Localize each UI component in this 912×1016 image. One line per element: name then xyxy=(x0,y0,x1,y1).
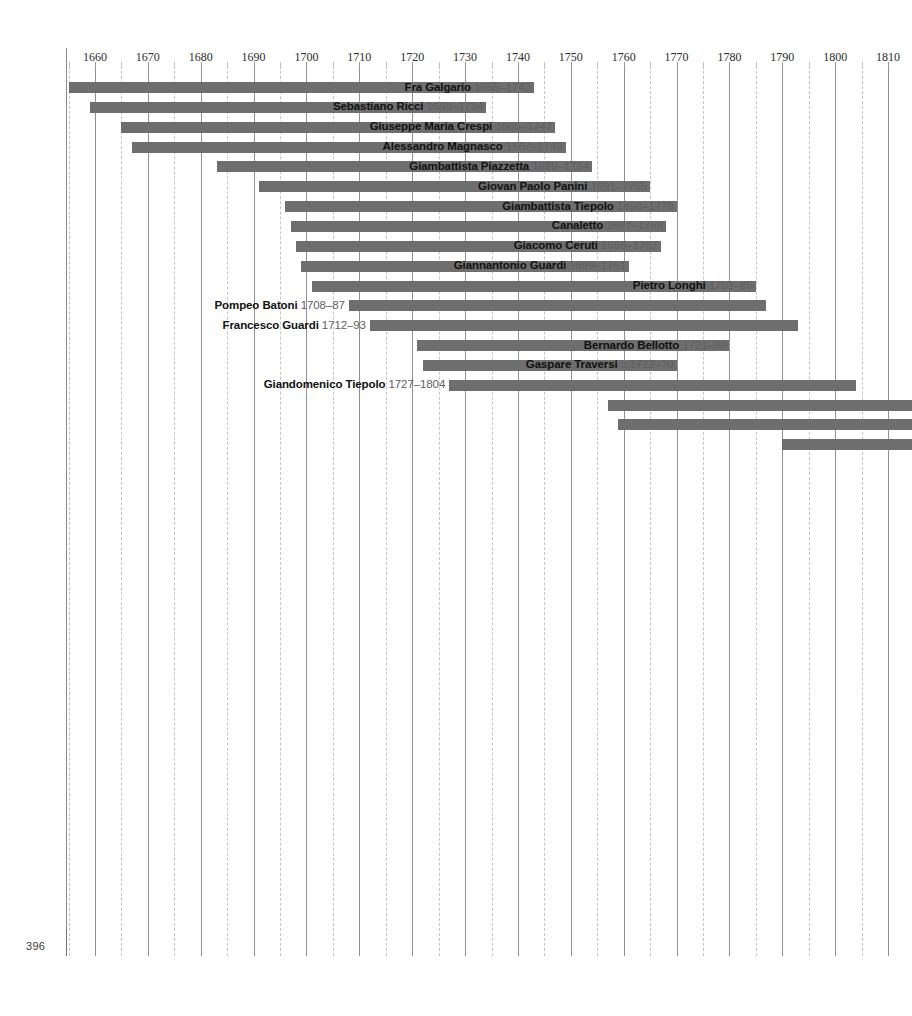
axis-tick-minor xyxy=(333,62,334,66)
artist-name: Pietro Longhi xyxy=(633,279,706,291)
axis-tick-label: 1770 xyxy=(665,50,689,65)
artist-name: Francesco Guardi xyxy=(223,319,319,331)
artist-dates: 1699–1761 xyxy=(566,259,626,271)
axis-tick-minor xyxy=(703,62,704,66)
timeline-bar-label: Fra Galgario 1655–1743 xyxy=(404,82,530,93)
axis-tick-label: 1690 xyxy=(242,50,266,65)
artist-dates: c.1722–70 xyxy=(618,358,674,370)
artist-dates: 1667–1749 xyxy=(503,140,563,152)
artist-name: Bernardo Bellotto xyxy=(584,339,679,351)
artist-dates: 1689–1754 xyxy=(529,160,589,172)
timeline-bar-label: Sebastiano Ricci 1659–1734 xyxy=(333,101,483,112)
axis-tick-minor xyxy=(174,62,175,66)
timeline-bar[interactable] xyxy=(349,300,767,311)
timeline-bar[interactable] xyxy=(370,320,798,331)
axis-tick-minor xyxy=(544,62,545,66)
axis-tick-label: 1670 xyxy=(136,50,160,65)
axis-tick-minor xyxy=(492,62,493,66)
artist-name: Giacomo Ceruti xyxy=(514,239,598,251)
axis-tick-minor xyxy=(809,62,810,66)
gridline-minor xyxy=(809,66,810,956)
timeline-bar-label: Giannantonio Guardi 1699–1761 xyxy=(454,260,626,271)
timeline-bar[interactable] xyxy=(449,380,856,391)
axis-tick-minor xyxy=(386,62,387,66)
gridline-minor xyxy=(386,66,387,956)
timeline-bar[interactable] xyxy=(782,439,912,450)
gridline-major xyxy=(412,66,413,956)
gridline-minor xyxy=(227,66,228,956)
artist-dates: 1665–1747 xyxy=(492,120,552,132)
gridline-major xyxy=(148,66,149,956)
gridline-minor xyxy=(703,66,704,956)
artist-dates: 1721–80 xyxy=(679,339,726,351)
gridline-major xyxy=(359,66,360,956)
gridline-major xyxy=(729,66,730,956)
axis-tick-minor xyxy=(862,62,863,66)
artist-name: Giambattista Piazzetta xyxy=(409,160,529,172)
artist-name: Sebastiano Ricci xyxy=(333,100,423,112)
artist-dates: 1698–1767 xyxy=(598,239,658,251)
timeline-bar-label: Giovan Paolo Panini 1691–1765 xyxy=(478,181,647,192)
artist-dates: 1691–1765 xyxy=(587,180,647,192)
artist-dates: 1655–1743 xyxy=(471,81,531,93)
gridline-minor xyxy=(333,66,334,956)
axis-tick-label: 1760 xyxy=(612,50,636,65)
axis-tick-minor xyxy=(439,62,440,66)
timeline-bar-label: Giuseppe Maria Crespi 1665–1747 xyxy=(370,121,552,132)
timeline-bar-label: Canaletto 1697–1768 xyxy=(552,220,663,231)
gridline-major xyxy=(201,66,202,956)
timeline-bar-label: Pompeo Batoni 1708–87 xyxy=(215,300,345,311)
gridline-minor xyxy=(69,66,70,956)
gridline-minor xyxy=(756,66,757,956)
timeline-bar-label: Giandomenico Tiepolo 1727–1804 xyxy=(264,379,446,390)
axis-tick-minor xyxy=(280,62,281,66)
timeline-bar-label: Giambattista Tiepolo 1696–1770 xyxy=(502,201,673,212)
axis-tick-label: 1680 xyxy=(189,50,213,65)
artist-name: Canaletto xyxy=(552,219,604,231)
artist-name: Giovan Paolo Panini xyxy=(478,180,587,192)
timeline-bar-label: Bernardo Bellotto 1721–80 xyxy=(584,340,727,351)
artist-dates: 1659–1734 xyxy=(423,100,483,112)
axis-tick-label: 1800 xyxy=(823,50,847,65)
axis-tick-label: 1780 xyxy=(717,50,741,65)
artist-name: Alessandro Magnasco xyxy=(383,140,503,152)
timeline-bar[interactable] xyxy=(618,419,912,430)
gridline-minor xyxy=(862,66,863,956)
gridline-major xyxy=(465,66,466,956)
gridline-major xyxy=(254,66,255,956)
artist-name: Giambattista Tiepolo xyxy=(502,200,614,212)
artist-name: Fra Galgario xyxy=(404,81,471,93)
axis-tick-minor xyxy=(121,62,122,66)
timeline-chart: 1660167016801690170017101720173017401750… xyxy=(0,0,912,1016)
gridline-major xyxy=(835,66,836,956)
artist-dates: 1708–87 xyxy=(298,299,345,311)
gridline-minor xyxy=(280,66,281,956)
gridline-major xyxy=(677,66,678,956)
gridline-major xyxy=(782,66,783,956)
artist-name: Giannantonio Guardi xyxy=(454,259,566,271)
timeline-bar-label: Francesco Guardi 1712–93 xyxy=(223,320,366,331)
gridline-minor xyxy=(174,66,175,956)
axis-tick-label: 1730 xyxy=(453,50,477,65)
artist-dates: 1696–1770 xyxy=(614,200,674,212)
axis-tick-label: 1790 xyxy=(770,50,794,65)
axis-tick-minor xyxy=(597,62,598,66)
artist-name: Giuseppe Maria Crespi xyxy=(370,120,493,132)
gridline-minor xyxy=(121,66,122,956)
timeline-bar-label: Gaspare Traversi c.1722–70 xyxy=(526,359,674,370)
timeline-bar[interactable] xyxy=(608,400,912,411)
timeline-bar-label: Pietro Longhi 1701–85 xyxy=(633,280,753,291)
artist-dates: 1697–1768 xyxy=(603,219,663,231)
axis-tick-label: 1710 xyxy=(347,50,371,65)
timeline-bar-label: Alessandro Magnasco 1667–1749 xyxy=(383,141,563,152)
artist-name: Pompeo Batoni xyxy=(215,299,298,311)
gridline-major xyxy=(306,66,307,956)
timeline-bar-label: Giambattista Piazzetta 1689–1754 xyxy=(409,161,589,172)
axis-tick-minor xyxy=(227,62,228,66)
gridline-major xyxy=(888,66,889,956)
axis-tick-label: 1740 xyxy=(506,50,530,65)
axis-tick-label: 1720 xyxy=(400,50,424,65)
artist-dates: 1701–85 xyxy=(706,279,753,291)
artist-dates: 1727–1804 xyxy=(385,378,445,390)
axis-tick-label: 1810 xyxy=(876,50,900,65)
